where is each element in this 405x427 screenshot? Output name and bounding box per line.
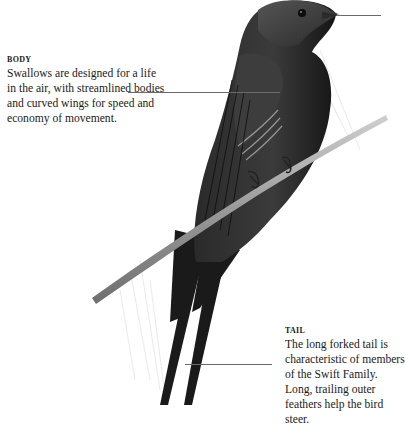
body-description: Swallows are designed for a life in the … xyxy=(7,66,167,126)
body-callout: BODY Swallows are designed for a life in… xyxy=(7,55,167,126)
tail-leader-line xyxy=(185,364,272,365)
tail-description: The long forked tail is characteristic o… xyxy=(285,337,405,427)
tail-heading: TAIL xyxy=(285,326,405,336)
bird-eye xyxy=(298,9,306,17)
body-heading: BODY xyxy=(7,55,167,65)
bird-body xyxy=(194,1,336,262)
head-leader-line xyxy=(338,15,381,16)
tail-callout: TAIL The long forked tail is characteris… xyxy=(285,326,405,427)
